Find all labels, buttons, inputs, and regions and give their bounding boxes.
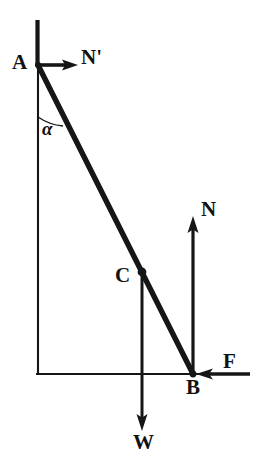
point-c-marker: [138, 268, 147, 277]
point-a-marker: [35, 62, 41, 68]
label-force-n: N: [201, 199, 216, 220]
label-force-w: W: [133, 432, 154, 453]
label-point-c: C: [115, 265, 130, 286]
label-force-f: F: [223, 351, 236, 372]
label-point-a: A: [12, 52, 27, 73]
label-point-b: B: [186, 377, 200, 398]
label-angle-alpha: α: [42, 119, 53, 138]
diagram-canvas: [0, 0, 257, 469]
ladder-line: [38, 65, 193, 374]
label-force-n-prime: N': [81, 47, 102, 68]
ladder-force-diagram: A N' α C N F B W: [0, 0, 257, 469]
